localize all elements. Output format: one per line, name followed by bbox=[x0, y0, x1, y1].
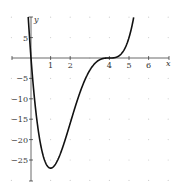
y-tick-label: −5 bbox=[16, 74, 28, 83]
grid-dot bbox=[11, 78, 12, 79]
grid-dot bbox=[50, 98, 51, 99]
grid-dot bbox=[70, 17, 71, 18]
grid-dot bbox=[148, 17, 149, 18]
y-tick-label: −10 bbox=[11, 95, 28, 104]
grid-dot bbox=[128, 180, 129, 181]
tick-labels: 124565−5−10−15−20−25 bbox=[11, 34, 151, 165]
grid-dot bbox=[89, 78, 90, 79]
grid-dot bbox=[11, 17, 12, 18]
grid-dot bbox=[50, 119, 51, 120]
grid-dot bbox=[109, 180, 110, 181]
grid-dot bbox=[89, 180, 90, 181]
grid-dot bbox=[50, 17, 51, 18]
grid-dot bbox=[50, 180, 51, 181]
y-tick-label: −20 bbox=[11, 136, 28, 145]
grid-dot bbox=[89, 98, 90, 99]
grid-dot bbox=[128, 139, 129, 140]
x-tick-label: 1 bbox=[48, 61, 53, 70]
grid-dot bbox=[70, 78, 71, 79]
x-tick-label: 4 bbox=[107, 61, 112, 70]
grid-dot bbox=[168, 37, 169, 38]
grid-dot bbox=[70, 139, 71, 140]
grid-dot bbox=[168, 139, 169, 140]
grid-dot bbox=[128, 119, 129, 120]
grid-dot bbox=[89, 37, 90, 38]
grid-dot bbox=[89, 139, 90, 140]
grid-dot bbox=[148, 98, 149, 99]
grid-dot bbox=[70, 98, 71, 99]
grid-dot bbox=[70, 159, 71, 160]
grid-dot bbox=[109, 37, 110, 38]
grid-dot bbox=[168, 17, 169, 18]
grid-dot bbox=[168, 119, 169, 120]
grid-dot bbox=[11, 180, 12, 181]
grid-dot bbox=[70, 37, 71, 38]
grid-dot bbox=[109, 17, 110, 18]
grid-dot bbox=[148, 180, 149, 181]
grid-dot bbox=[148, 139, 149, 140]
grid-dot bbox=[148, 37, 149, 38]
y-tick-label: 5 bbox=[23, 34, 28, 43]
grid-dot bbox=[89, 119, 90, 120]
grid-dot bbox=[70, 180, 71, 181]
grid-dot bbox=[89, 159, 90, 160]
chart-plot: 124565−5−10−15−20−25 x y bbox=[0, 0, 182, 192]
grid-dot bbox=[109, 139, 110, 140]
grid-dot bbox=[128, 78, 129, 79]
grid-dot bbox=[109, 98, 110, 99]
grid-dot bbox=[168, 98, 169, 99]
x-tick-label: 6 bbox=[146, 61, 151, 70]
grid-dot bbox=[50, 139, 51, 140]
grid-dot bbox=[148, 159, 149, 160]
grid-dot bbox=[109, 119, 110, 120]
grid-dot bbox=[128, 159, 129, 160]
grid-dot bbox=[148, 78, 149, 79]
axes bbox=[12, 17, 169, 181]
grid-dot bbox=[168, 180, 169, 181]
function-curve bbox=[28, 17, 133, 168]
grid-dot bbox=[128, 17, 129, 18]
grid-dot bbox=[109, 159, 110, 160]
y-tick-label: −15 bbox=[11, 115, 28, 124]
grid-dot bbox=[89, 17, 90, 18]
grid-dot bbox=[128, 98, 129, 99]
y-tick-label: −25 bbox=[11, 156, 28, 165]
grid-dot bbox=[50, 159, 51, 160]
grid-dot bbox=[168, 159, 169, 160]
y-axis-label: y bbox=[33, 15, 39, 24]
grid-dot bbox=[50, 37, 51, 38]
grid-dot bbox=[148, 119, 149, 120]
grid-dot bbox=[168, 78, 169, 79]
grid-dot bbox=[109, 78, 110, 79]
grid-dot bbox=[11, 37, 12, 38]
x-tick-label: 2 bbox=[68, 61, 73, 70]
grid-dot bbox=[50, 78, 51, 79]
x-tick-label: 5 bbox=[126, 61, 131, 70]
tick-marks bbox=[12, 17, 169, 181]
x-axis-label: x bbox=[166, 59, 171, 68]
